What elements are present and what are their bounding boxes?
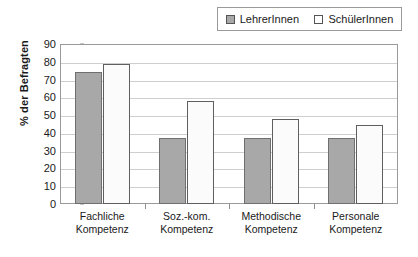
bar-lehrerinnen: [159, 138, 186, 204]
bar-schuelerinnen: [356, 125, 383, 204]
y-axis-tick-label: 30: [44, 145, 56, 156]
x-axis-category-label: FachlicheKompetenz: [60, 210, 145, 236]
bar-schuelerinnen: [103, 64, 130, 204]
bar-chart: LehrerInnen SchülerInnen % der Befragten…: [0, 0, 418, 257]
legend-label-lehrerinnen: LehrerInnen: [240, 14, 299, 25]
legend-item-lehrerinnen: LehrerInnen: [226, 14, 299, 25]
category-separator-tick: [314, 204, 315, 209]
y-axis-tick-label: 50: [44, 110, 56, 121]
bars-layer: [60, 44, 398, 204]
y-axis-tick-label: 90: [44, 39, 56, 50]
bar-lehrerinnen: [75, 72, 102, 204]
bar-schuelerinnen: [187, 101, 214, 204]
category-separator-tick: [229, 204, 230, 209]
bar-lehrerinnen: [244, 138, 271, 204]
legend-item-schuelerinnen: SchülerInnen: [314, 14, 393, 25]
legend-swatch-filled-square-icon: [226, 15, 235, 24]
y-axis-tick-label: 10: [44, 181, 56, 192]
category-separator-ticks: [60, 204, 398, 209]
x-axis-category-label: Soz.-kom.Kompetenz: [145, 210, 230, 236]
x-axis-category-label: PersonaleKompetenz: [314, 210, 399, 236]
chart-legend: LehrerInnen SchülerInnen: [217, 7, 402, 31]
y-axis-tick-label: 60: [44, 92, 56, 103]
bar-schuelerinnen: [272, 119, 299, 204]
y-axis-tick-label: 80: [44, 56, 56, 67]
legend-swatch-empty-square-icon: [314, 15, 323, 24]
y-axis-tick-label: 70: [44, 74, 56, 85]
y-axis-tick-label: 40: [44, 127, 56, 138]
x-axis-category-label: MethodischeKompetenz: [229, 210, 314, 236]
legend-label-schuelerinnen: SchülerInnen: [328, 14, 393, 25]
x-axis-category-labels: FachlicheKompetenzSoz.-kom.KompetenzMeth…: [60, 210, 398, 250]
y-axis-tick-labels: 9080706050403020100: [24, 44, 56, 204]
y-axis-tick-label: 0: [50, 199, 56, 210]
y-axis-tick-label: 20: [44, 163, 56, 174]
bar-lehrerinnen: [328, 138, 355, 204]
category-separator-tick: [145, 204, 146, 209]
